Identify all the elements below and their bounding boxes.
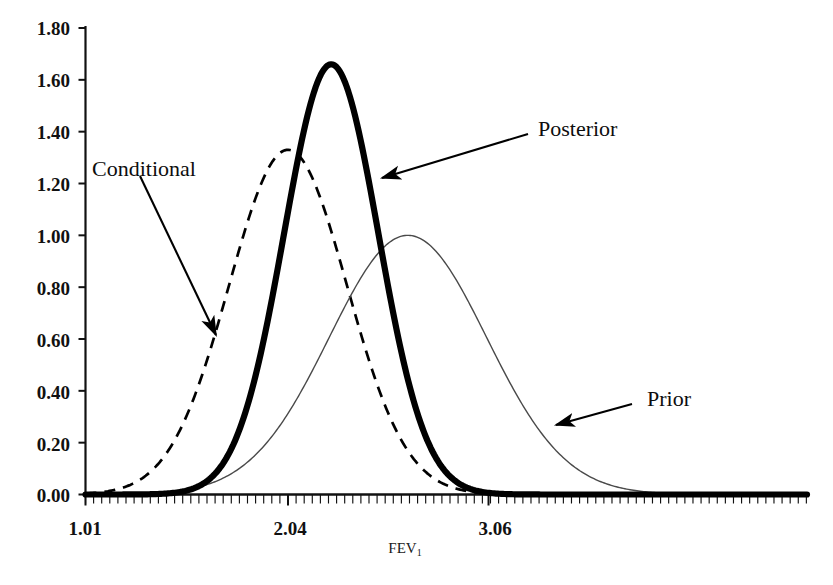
x-axis-title: FEV1 bbox=[345, 540, 465, 558]
series-line-prior bbox=[86, 235, 808, 494]
y-tick-label: 1.40 bbox=[4, 122, 70, 144]
annotation-arrow-prior bbox=[556, 404, 632, 425]
axis-lines bbox=[85, 26, 807, 495]
series-line-conditional bbox=[86, 150, 808, 495]
x-axis-title-base: FEV bbox=[388, 540, 416, 556]
y-tick-label: 0.00 bbox=[4, 485, 70, 507]
x-tick-label: 2.04 bbox=[250, 518, 330, 540]
annotation-label-prior: Prior bbox=[647, 386, 691, 412]
annotation-label-conditional: Conditional bbox=[92, 156, 196, 182]
x-tick-label: 1.01 bbox=[45, 518, 125, 540]
chart-canvas bbox=[0, 0, 833, 585]
y-tick-label: 1.20 bbox=[4, 174, 70, 196]
annotation-arrow-posterior bbox=[382, 134, 528, 178]
y-tick-label: 1.00 bbox=[4, 226, 70, 248]
series-line-posterior bbox=[86, 64, 808, 494]
y-tick-label: 0.60 bbox=[4, 330, 70, 352]
x-axis-title-subscript: 1 bbox=[417, 547, 422, 558]
y-tick-label: 1.80 bbox=[4, 18, 70, 40]
chart-figure: 1.80 1.60 1.40 1.20 1.00 0.80 0.60 0.40 … bbox=[0, 0, 833, 585]
y-tick-label: 0.80 bbox=[4, 278, 70, 300]
y-tick-label: 1.60 bbox=[4, 70, 70, 92]
annotation-arrow-conditional bbox=[140, 176, 216, 335]
y-tick-label: 0.40 bbox=[4, 382, 70, 404]
annotation-label-posterior: Posterior bbox=[538, 116, 617, 142]
x-tick-label: 3.06 bbox=[455, 518, 535, 540]
y-tick-label: 0.20 bbox=[4, 434, 70, 456]
